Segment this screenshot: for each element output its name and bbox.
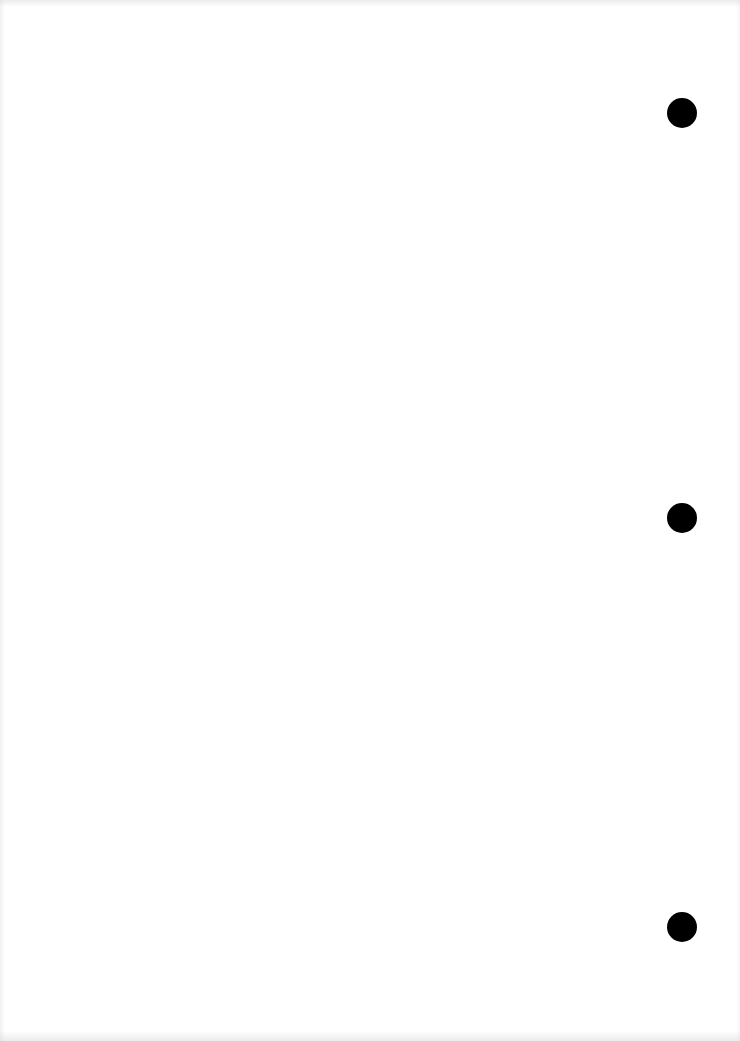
scan-edge-right — [736, 0, 740, 1041]
scan-edge-top — [0, 0, 740, 7]
scan-edge-bottom — [0, 1031, 740, 1041]
scan-edge-left — [0, 0, 5, 1041]
punch-hole-middle — [667, 503, 697, 533]
punch-hole-top — [667, 98, 697, 128]
blank-page — [0, 0, 740, 1041]
punch-hole-bottom — [667, 912, 697, 942]
